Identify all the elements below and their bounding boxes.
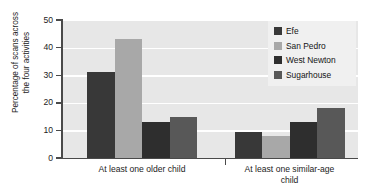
- y-axis-tick-label: 0: [13, 153, 53, 163]
- legend: EfeSan PedroWest NewtonSugarhouse: [268, 21, 356, 86]
- legend-item: San Pedro: [268, 39, 356, 54]
- legend-item-label: West Newton: [286, 55, 336, 65]
- legend-item: Sugarhouse: [268, 68, 356, 83]
- y-axis-tick: [56, 157, 62, 159]
- bar: [115, 39, 143, 158]
- legend-swatch-icon: [274, 42, 282, 50]
- y-axis-tick-label: 50: [13, 15, 53, 25]
- x-axis-line: [61, 158, 358, 160]
- x-axis-tick-label: At least one similar-age child: [220, 164, 360, 185]
- bar: [317, 108, 345, 158]
- y-axis-tick-label: 30: [13, 70, 53, 80]
- bar: [235, 132, 263, 158]
- y-axis-line: [61, 19, 63, 159]
- y-axis-tick-label: 40: [13, 42, 53, 52]
- x-axis-group-separator-tick: [225, 158, 226, 165]
- legend-item-label: Sugarhouse: [286, 70, 331, 80]
- bar-chart: Percentage of scans across the four acti…: [0, 0, 371, 196]
- y-axis-tick: [56, 19, 62, 21]
- bar: [262, 136, 290, 158]
- bar: [170, 117, 198, 158]
- legend-item-label: San Pedro: [286, 41, 326, 51]
- legend-swatch-icon: [274, 27, 282, 35]
- legend-item: Efe: [268, 24, 356, 39]
- y-axis-tick-label: 10: [13, 125, 53, 135]
- bar: [142, 122, 170, 158]
- y-axis-tick: [56, 130, 62, 132]
- bar: [87, 72, 115, 158]
- legend-item: West Newton: [268, 53, 356, 68]
- y-axis-tick-label: 20: [13, 97, 53, 107]
- legend-item-label: Efe: [286, 26, 299, 36]
- legend-swatch-icon: [274, 71, 282, 79]
- x-axis-tick-label: At least one older child: [72, 164, 212, 175]
- legend-swatch-icon: [274, 56, 282, 64]
- bar: [290, 122, 318, 158]
- y-axis-tick: [56, 102, 62, 104]
- y-axis-tick: [56, 75, 62, 77]
- y-axis-tick: [56, 47, 62, 49]
